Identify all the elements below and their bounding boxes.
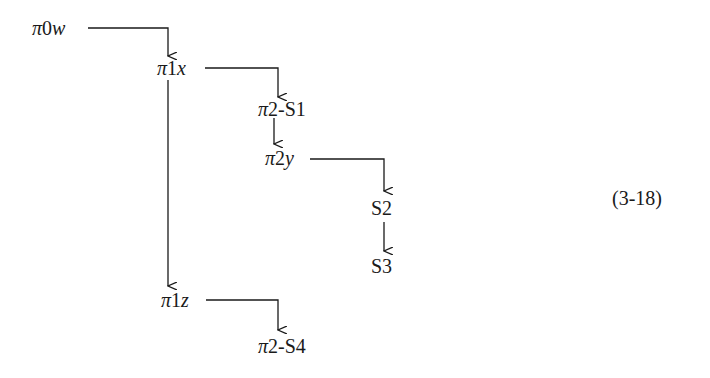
node-label: S2: [371, 197, 392, 219]
node-pi2-S1: π2-S1: [258, 98, 306, 120]
node-S2: S2: [371, 197, 392, 219]
pi-symbol: π: [161, 289, 171, 311]
node-rest: 2-S1: [268, 98, 306, 120]
tree-diagram: π0w π1x π2-S1 π2y S2 S3 π1z π2-S4 (3-18): [0, 0, 710, 378]
edge-pi0w-pi1x: [88, 28, 168, 56]
node-pi1x: π1x: [157, 57, 186, 79]
node-pi1z: π1z: [161, 289, 189, 311]
equation-number: (3-18): [612, 187, 662, 209]
node-pi2-S4: π2-S4: [258, 335, 306, 357]
node-num: 1: [171, 289, 181, 311]
node-var: y: [285, 147, 294, 169]
node-var: z: [181, 289, 189, 311]
node-pi2y: π2y: [265, 147, 294, 169]
node-var: x: [177, 57, 186, 79]
node-label: S3: [371, 255, 392, 277]
edge-pi2y-S2: [310, 159, 384, 191]
pi-symbol: π: [258, 98, 268, 120]
node-num: 1: [167, 57, 177, 79]
edge-pi1z-pi2S4: [206, 300, 278, 330]
edges: [0, 0, 710, 378]
edge-pi1x-pi2S1: [205, 68, 278, 97]
node-num: 2: [275, 147, 285, 169]
pi-symbol: π: [157, 57, 167, 79]
node-num: 0: [42, 17, 52, 39]
node-rest: 2-S4: [268, 335, 306, 357]
pi-symbol: π: [265, 147, 275, 169]
node-var: w: [52, 17, 65, 39]
node-S3: S3: [371, 255, 392, 277]
pi-symbol: π: [258, 335, 268, 357]
pi-symbol: π: [32, 17, 42, 39]
node-pi0w: π0w: [32, 17, 65, 39]
